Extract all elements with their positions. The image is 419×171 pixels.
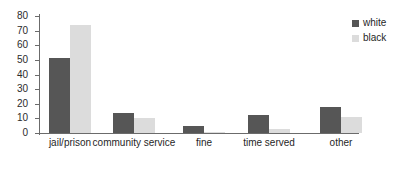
- y-axis-tick: [35, 60, 39, 61]
- legend-label-white: white: [363, 18, 386, 28]
- x-axis-line: [39, 133, 359, 134]
- y-axis-tick: [35, 45, 39, 46]
- plot-area: [40, 16, 355, 133]
- y-axis-tick-label: 60: [0, 40, 28, 50]
- bar-black-fine: [204, 132, 225, 133]
- y-axis-tick: [35, 118, 39, 119]
- y-axis-tick: [35, 133, 39, 134]
- bar-group: [49, 16, 91, 133]
- y-axis-tick: [35, 104, 39, 105]
- y-axis-tick-label: 40: [0, 70, 28, 80]
- y-axis-tick-label: 30: [0, 84, 28, 94]
- legend-swatch-black-icon: [352, 35, 359, 42]
- y-axis-tick-label: 50: [0, 55, 28, 65]
- y-axis-tick: [35, 75, 39, 76]
- x-axis-label-other: other: [286, 137, 396, 149]
- bar-black-time-served: [269, 129, 290, 133]
- y-axis-tick: [35, 89, 39, 90]
- legend-label-black: black: [363, 33, 386, 43]
- legend: white black: [352, 17, 386, 47]
- y-axis-tick: [35, 31, 39, 32]
- bar-group: [183, 16, 225, 133]
- bar-chart: 01020304050607080 jail/prisoncommunity s…: [0, 0, 419, 171]
- bar-white-other: [320, 107, 341, 133]
- bar-black-jail-prison: [70, 25, 91, 133]
- bar-group: [113, 16, 155, 133]
- bar-group: [248, 16, 290, 133]
- y-axis-tick-label: 70: [0, 26, 28, 36]
- bar-white-jail-prison: [49, 58, 70, 133]
- y-axis-tick-label: 10: [0, 113, 28, 123]
- legend-item-black: black: [352, 32, 386, 44]
- legend-item-white: white: [352, 17, 386, 29]
- bar-white-time-served: [248, 115, 269, 133]
- bar-white-community-service: [113, 113, 134, 133]
- legend-swatch-white-icon: [352, 20, 359, 27]
- bar-black-community-service: [134, 118, 155, 133]
- bar-white-fine: [183, 126, 204, 133]
- bar-black-other: [341, 117, 362, 133]
- y-axis-tick: [35, 16, 39, 17]
- y-axis-tick-label: 80: [0, 11, 28, 21]
- y-axis-tick-label: 20: [0, 99, 28, 109]
